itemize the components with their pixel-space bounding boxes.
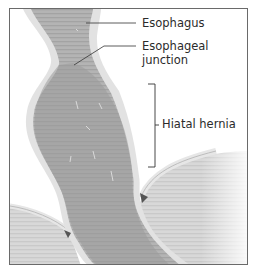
label-esophagus: Esophagus (142, 17, 205, 30)
anatomy-illustration (10, 9, 248, 265)
figure-frame: Esophagus Esophageal junction Hiatal her… (9, 8, 248, 265)
label-esophageal-junction-line2: junction (142, 54, 188, 67)
label-hiatal-hernia: Hiatal hernia (162, 118, 236, 131)
hernia-bracket (148, 84, 159, 167)
label-esophageal-junction-line1: Esophageal (142, 40, 209, 53)
